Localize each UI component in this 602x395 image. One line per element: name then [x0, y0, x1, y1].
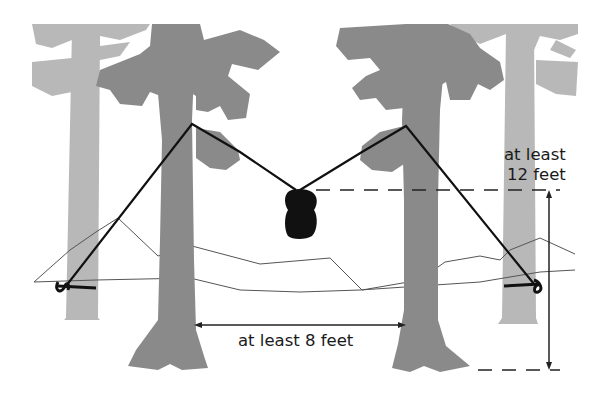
bear-hang-diagram: at least 12 feet at least 8 feet [0, 0, 602, 395]
height-label-line2: 12 feet [507, 165, 566, 184]
distance-dimension [194, 322, 406, 328]
foreground-tree-right [336, 24, 504, 372]
distance-label: at least 8 feet [238, 331, 354, 350]
height-label-line1: at least [504, 145, 566, 164]
foreground-tree-left [96, 24, 280, 370]
food-bag [285, 189, 317, 239]
